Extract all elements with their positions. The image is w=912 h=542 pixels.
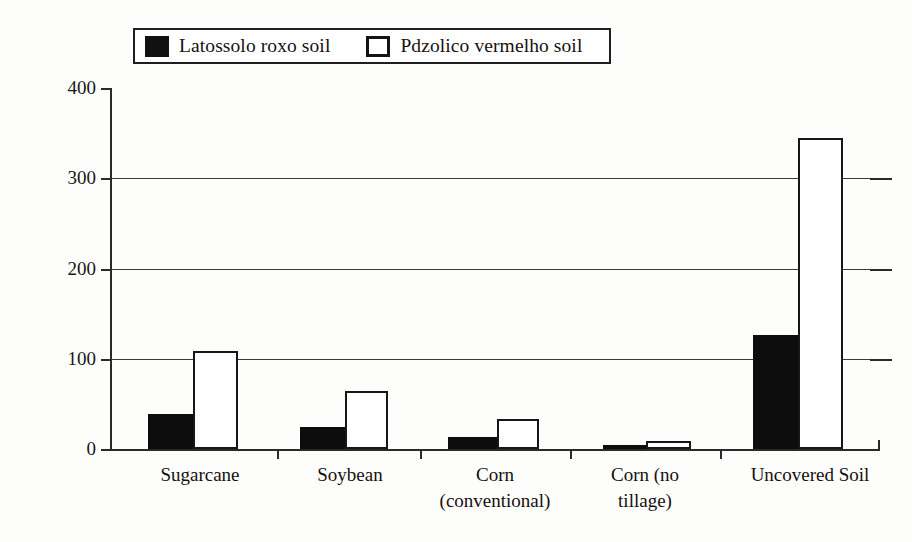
bar [603,445,646,449]
y-axis-tick-mark [101,269,112,271]
chart-legend: Latossolo roxo soil Pdzolico vermelho so… [133,28,611,64]
y-axis-tick-mark-right [870,269,892,271]
legend-entry-latossolo: Latossolo roxo soil [145,30,330,62]
y-axis-tick-label: 400 [68,77,97,99]
bar [300,427,345,449]
y-axis-tick-mark [101,88,112,90]
x-axis-group-tick [570,449,572,459]
bar [646,441,691,449]
y-axis-tick-label: 300 [68,167,97,189]
bar [497,419,539,449]
y-axis-tick-label: 100 [68,348,97,370]
y-axis-tick-mark [101,449,112,451]
bar [798,138,843,449]
legend-swatch-filled-square-icon [145,36,169,57]
gridline [110,178,878,179]
category-label-line: Sugarcane [160,464,239,485]
bar [148,414,193,449]
category-label-line: Corn (no [611,464,679,485]
x-axis-category-label: Sugarcane [110,462,290,488]
x-axis-category-label: Uncovered Soil [710,462,910,488]
bar [753,335,798,449]
legend-entry-pdzolico: Pdzolico vermelho soil [366,30,582,62]
x-axis-group-tick [277,449,279,459]
bar [345,391,388,449]
gridline [110,269,878,270]
legend-label-pdzolico: Pdzolico vermelho soil [400,35,582,57]
x-axis-category-label: Corn (notillage) [555,462,735,514]
category-label-line: Soybean [317,464,382,485]
legend-swatch-hollow-square-icon [366,36,390,57]
y-axis-tick-label: 0 [87,438,97,460]
category-label-line: Uncovered Soil [751,464,870,485]
x-axis-category-labels: SugarcaneSoybeanCorn(conventional)Corn (… [110,462,900,532]
x-axis-end-tick [878,440,880,451]
category-label-line: tillage) [555,488,735,514]
bar-chart-figure: Latossolo roxo soil Pdzolico vermelho so… [0,0,912,542]
y-axis-tick-mark [101,178,112,180]
x-axis-group-tick [720,449,722,459]
bar [448,437,497,449]
y-axis-tick-mark-right [870,178,892,180]
y-axis-tick-label: 200 [68,258,97,280]
plot-area: 0100200300400 [110,88,878,450]
y-axis-tick-mark-right [870,359,892,361]
category-label-line: Corn [476,464,514,485]
y-axis-tick-mark [101,359,112,361]
bar [193,351,238,449]
x-axis-line [110,449,880,451]
x-axis-group-tick [420,449,422,459]
legend-label-latossolo: Latossolo roxo soil [179,35,330,57]
